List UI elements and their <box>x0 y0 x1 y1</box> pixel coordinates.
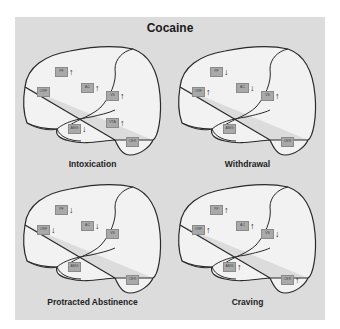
arrow-icon: ↑ <box>224 206 229 215</box>
arrow-icon: ↓ <box>51 226 56 235</box>
arrow-icon: ↓ <box>224 68 229 77</box>
region-ac: AC↓ <box>81 221 100 231</box>
arrow-icon: ↑ <box>250 222 255 231</box>
caption-intoxication: Intoxication <box>15 159 170 169</box>
brain-withdrawal: PF↓ ORF↑ AC↓ VS↑ AMG CER Withdrawal <box>170 37 325 187</box>
region-orf: ORF↑ <box>192 225 211 235</box>
region-ac: AC↓ <box>236 83 255 93</box>
region-vs: VS↑ <box>106 91 125 101</box>
region-pf: PF↑ <box>55 67 74 77</box>
region-cer: CER <box>126 275 140 285</box>
arrow-icon: ↑ <box>120 92 125 101</box>
arrow-icon: ↑ <box>120 119 125 128</box>
region-amg: AMG <box>223 124 237 134</box>
arrow-icon: ↓ <box>82 125 87 134</box>
arrow-icon: ↑ <box>237 263 242 272</box>
figure-title: Cocaine <box>15 21 325 35</box>
arrow-icon: ↓ <box>69 206 74 215</box>
region-vta: VTA↑ <box>106 118 125 128</box>
region-cer: CER <box>281 137 295 147</box>
region-pf: PF↓ <box>210 67 229 77</box>
arrow-icon: ↑ <box>295 276 300 285</box>
arrow-icon: ↓ <box>275 230 280 239</box>
region-amg: AMG↓ <box>68 124 87 134</box>
caption-protracted-abstinence: Protracted Abstinence <box>15 297 170 307</box>
arrow-icon: ↑ <box>206 88 211 97</box>
region-orf: ORF↑ <box>192 87 211 97</box>
brain-craving: PF↑ ORF↑ AC↑ VS↓ AMG↑ CER↑ Craving <box>170 175 325 325</box>
region-cer: CER <box>126 137 140 147</box>
region-ac: AC↑ <box>81 83 100 93</box>
region-cer: CER↑ <box>281 275 300 285</box>
brain-intoxication: PF↑ ORF AC↑ VS↑ AMG↓ VTA↑ CER Intoxicati… <box>15 37 170 187</box>
region-amg: AMG↑ <box>223 262 242 272</box>
arrow-icon: ↑ <box>275 92 280 101</box>
arrow-icon: ↑ <box>69 68 74 77</box>
region-pf: PF↑ <box>210 205 229 215</box>
region-vs: VS↑ <box>261 91 280 101</box>
region-pf: PF↓ <box>55 205 74 215</box>
region-amg: AMG <box>68 262 82 272</box>
region-orf: ORF <box>37 87 51 97</box>
brain-protracted-abstinence: PF↓ ORF↓ AC↓ VS AMG CER Protracted Absti… <box>15 175 170 325</box>
arrow-icon: ↑ <box>206 226 211 235</box>
region-vs: VS↓ <box>261 229 280 239</box>
region-ac: AC↑ <box>236 221 255 231</box>
region-orf: ORF↓ <box>37 225 56 235</box>
caption-craving: Craving <box>170 297 325 307</box>
arrow-icon: ↓ <box>95 222 100 231</box>
arrow-icon: ↓ <box>250 84 255 93</box>
region-vs: VS <box>106 229 120 239</box>
arrow-icon: ↑ <box>95 84 100 93</box>
caption-withdrawal: Withdrawal <box>170 159 325 169</box>
figure-panel: Cocaine PF↑ ORF AC↑ VS↑ AMG↓ VTA↑ CER In… <box>15 17 325 320</box>
